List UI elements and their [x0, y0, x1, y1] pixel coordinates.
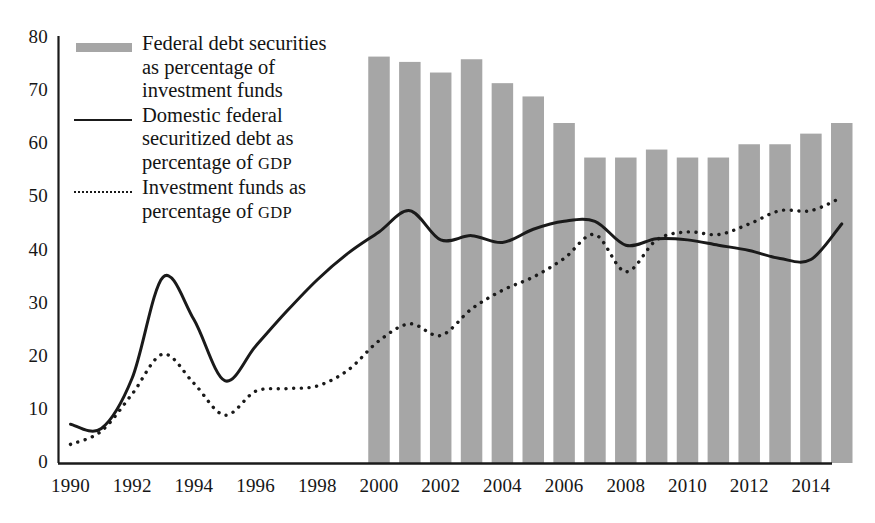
y-tick-label: 40	[8, 239, 48, 261]
x-tick-label: 1992	[97, 475, 167, 497]
y-tick-label: 0	[8, 451, 48, 473]
legend-line-1: Domestic federal	[142, 104, 283, 126]
bar-2012	[738, 144, 760, 463]
legend-label-federal-debt-securities: Federal debt securities as percentage of…	[142, 32, 326, 103]
bar-2013	[769, 144, 791, 463]
x-tick-label: 1996	[221, 475, 291, 497]
legend-label-domestic-federal-securitized-debt: Domestic federal securitized debt as per…	[142, 104, 293, 176]
y-tick-label: 60	[8, 132, 48, 154]
legend-line-3: investment funds	[142, 79, 283, 101]
bar-2005	[523, 96, 545, 463]
y-tick-label: 10	[8, 398, 48, 420]
bar-2008	[615, 158, 637, 463]
bar-2014	[800, 134, 822, 463]
y-tick-label: 80	[8, 26, 48, 48]
x-tick-label: 2014	[776, 475, 846, 497]
legend-smallcaps-gdp: GDP	[258, 203, 292, 222]
bar-2009	[646, 150, 668, 463]
dotted-line-icon	[72, 181, 134, 203]
x-tick-label: 2000	[344, 475, 414, 497]
bar-2010	[677, 158, 699, 463]
bar-2004	[492, 83, 514, 463]
solid-line-icon	[72, 109, 134, 131]
y-tick-label: 30	[8, 292, 48, 314]
legend-line-2: securitized debt as	[142, 127, 293, 149]
chart-legend: Federal debt securities as percentage of…	[72, 32, 362, 225]
bar-2006	[553, 123, 575, 463]
x-tick-label: 2010	[653, 475, 723, 497]
bar-2011	[708, 158, 730, 463]
legend-smallcaps-gdp: GDP	[258, 154, 292, 173]
legend-line-1: Investment funds as	[142, 176, 306, 198]
chart-figure: 80706050403020100 1990199219941996199820…	[0, 0, 875, 523]
legend-label-investment-funds: Investment funds as percentage of GDP	[142, 176, 306, 224]
bar-swatch-icon	[72, 37, 134, 59]
bar-2015	[831, 123, 853, 463]
legend-entry-federal-debt-securities: Federal debt securities as percentage of…	[72, 32, 362, 103]
bar-2007	[584, 158, 606, 463]
legend-line-2: percentage of	[142, 200, 258, 222]
legend-entry-investment-funds: Investment funds as percentage of GDP	[72, 176, 362, 224]
legend-line-2: as percentage of	[142, 56, 275, 78]
x-tick-label: 1994	[159, 475, 229, 497]
bar-2002	[430, 73, 452, 463]
bar-2000	[368, 57, 390, 463]
bar-2003	[461, 59, 483, 463]
x-tick-label: 2012	[714, 475, 784, 497]
x-tick-label: 2002	[406, 475, 476, 497]
y-tick-label: 20	[8, 345, 48, 367]
x-tick-label: 1998	[282, 475, 352, 497]
x-tick-label: 2004	[467, 475, 537, 497]
x-tick-label: 1990	[36, 475, 106, 497]
x-tick-label: 2008	[591, 475, 661, 497]
legend-entry-domestic-federal-securitized-debt: Domestic federal securitized debt as per…	[72, 104, 362, 176]
legend-line-3: percentage of	[142, 151, 258, 173]
legend-line-1: Federal debt securities	[142, 32, 326, 54]
x-tick-label: 2006	[529, 475, 599, 497]
y-tick-label: 70	[8, 79, 48, 101]
bar-2001	[399, 62, 421, 463]
y-tick-label: 50	[8, 185, 48, 207]
